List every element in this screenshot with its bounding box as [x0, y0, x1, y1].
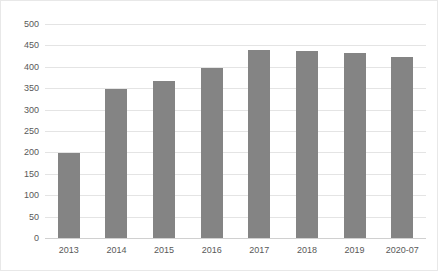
x-axis-line	[45, 238, 426, 239]
y-tick-label: 300	[0, 106, 39, 115]
y-tick-label: 200	[0, 148, 39, 157]
bar-chart: 050100150200250300350400450500 201320142…	[0, 0, 438, 271]
bar[interactable]	[201, 68, 223, 238]
bar[interactable]	[105, 89, 127, 238]
bar-slot	[188, 24, 236, 238]
y-tick-label: 350	[0, 84, 39, 93]
y-tick-label: 50	[0, 213, 39, 222]
plot-area	[45, 24, 426, 238]
y-tick-label: 500	[0, 20, 39, 29]
bar-slot	[140, 24, 188, 238]
bar-slot	[236, 24, 284, 238]
bar-slot	[283, 24, 331, 238]
bar[interactable]	[391, 57, 413, 238]
bar[interactable]	[296, 51, 318, 238]
bar[interactable]	[344, 53, 366, 238]
y-tick-label: 0	[0, 234, 39, 243]
bar[interactable]	[153, 81, 175, 239]
bar[interactable]	[58, 153, 80, 238]
bar-slot	[378, 24, 426, 238]
bar-slot	[93, 24, 141, 238]
bar-slot	[331, 24, 379, 238]
x-tick-label: 2020-07	[372, 245, 432, 255]
bar-slot	[45, 24, 93, 238]
y-tick-label: 150	[0, 170, 39, 179]
y-axis-tick-labels: 050100150200250300350400450500	[1, 24, 39, 238]
y-tick-label: 100	[0, 191, 39, 200]
bar[interactable]	[248, 50, 270, 238]
y-tick-label: 450	[0, 41, 39, 50]
y-tick-label: 250	[0, 127, 39, 136]
y-tick-label: 400	[0, 63, 39, 72]
